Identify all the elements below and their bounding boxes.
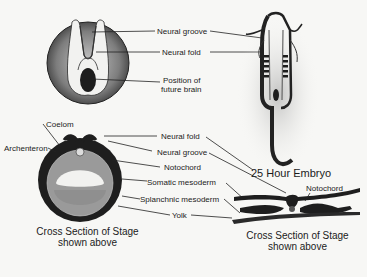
label-future-brain-line2: future brain [161,85,201,94]
embryology-diagram: Neural groove Neural fold Position of fu… [0,0,367,277]
embryo-25-hour [236,13,320,175]
label-notochord-left: Notochord [164,163,201,172]
label-notochord-right: Notochord [306,184,343,193]
caption-right-line1: Cross Section of Stage [240,230,355,241]
label-somatic-mesoderm: Somatic mesoderm [147,178,216,187]
label-neural-fold-cross: Neural fold [161,132,200,141]
caption-right-line2: shown above [240,241,355,252]
caption-left-line1: Cross Section of Stage [30,226,145,237]
label-yolk: Yolk [172,211,187,220]
label-neural-groove-cross: Neural groove [157,148,207,157]
neural-plate-view [47,20,129,104]
right-cross-section [232,188,360,224]
caption-left-line2: shown above [30,237,145,248]
label-coelom: Coelom [46,120,74,129]
label-splanchnic-mesoderm: Splanchnic mesoderm [140,195,219,204]
label-future-brain-line1: Position of [163,76,200,85]
caption-left: Cross Section of Stage shown above [30,226,145,248]
caption-right: Cross Section of Stage shown above [240,230,355,252]
left-cross-section [38,136,122,222]
label-neural-fold-top: Neural fold [162,48,201,57]
embryo-title: 25 Hour Embryo [251,167,331,179]
label-neural-groove-top: Neural groove [157,27,207,36]
label-archenteron: Archenteron [4,144,48,153]
